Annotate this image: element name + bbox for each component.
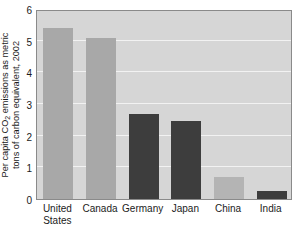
plot-area — [36, 10, 292, 200]
x-axis-tick-labels: UnitedStatesCanadaGermanyJapanChinaIndia — [36, 203, 292, 237]
y-axis-tick-label: 2 — [18, 131, 32, 142]
y-axis-tick-label: 6 — [18, 5, 32, 16]
bar — [171, 121, 201, 199]
bar — [129, 114, 159, 200]
y-axis-tick-label: 3 — [18, 100, 32, 111]
x-axis-tick-label: Canada — [79, 203, 122, 215]
bars-container — [37, 11, 291, 199]
y-axis-title-part1: Per capita CO — [0, 120, 10, 178]
x-axis-tick-label: UnitedStates — [36, 203, 79, 227]
y-axis-tick-label: 0 — [18, 195, 32, 206]
bar — [43, 28, 73, 199]
y-axis-tick-label: 4 — [18, 68, 32, 79]
bar — [86, 38, 116, 200]
y-axis-title-part2: emissions as metric — [0, 33, 10, 116]
x-axis-tick-label-line2: States — [36, 215, 79, 227]
x-axis-tick-label: Germany — [121, 203, 164, 215]
x-axis-tick-label: China — [207, 203, 250, 215]
bar-chart-figure: Per capita CO2 emissions as metric tons … — [0, 0, 298, 238]
x-axis-tick-label: Japan — [164, 203, 207, 215]
y-axis-tick-label: 5 — [18, 36, 32, 47]
y-axis-title-subscript: 2 — [4, 116, 11, 120]
x-axis-tick-label: India — [249, 203, 292, 215]
bar — [257, 191, 287, 199]
bar — [214, 177, 244, 199]
y-axis-tick-labels: 0123456 — [18, 10, 32, 200]
y-axis-tick-label: 1 — [18, 163, 32, 174]
